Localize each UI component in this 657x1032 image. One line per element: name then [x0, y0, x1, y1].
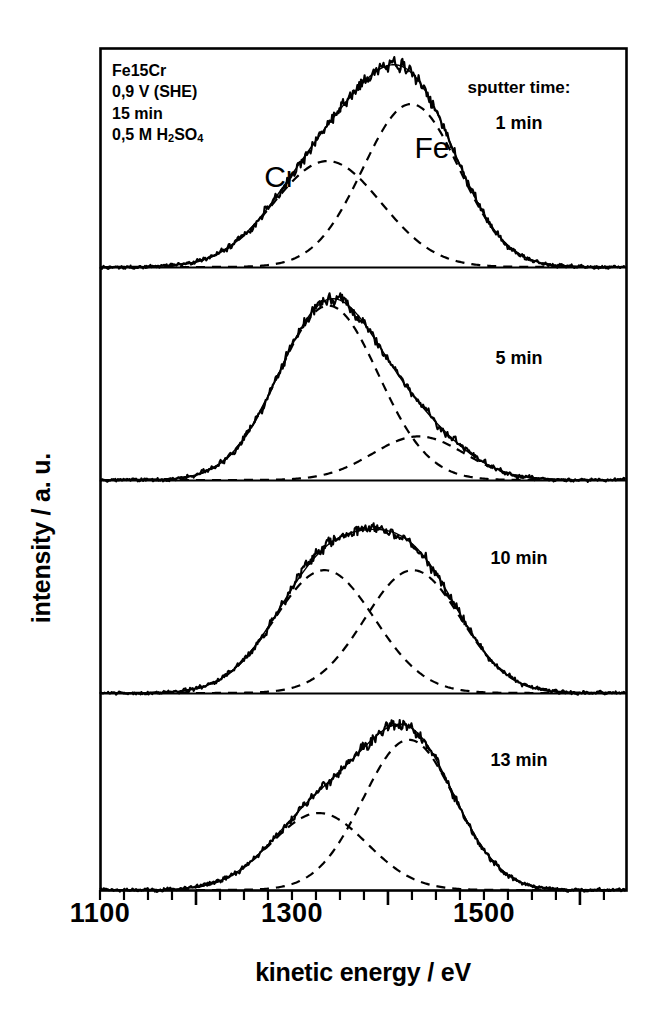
- component-curve-cr: [100, 161, 625, 267]
- sample-potential: 0,9 V (SHE): [112, 81, 203, 102]
- x-tick-label-1500: 1500: [453, 898, 515, 929]
- peak-label-fe: Fe: [414, 131, 449, 165]
- sample-name: Fe15Cr: [112, 60, 203, 81]
- sample-duration: 15 min: [112, 103, 203, 124]
- panel-time-label-2: 5 min: [495, 348, 542, 369]
- peak-label-cr: Cr: [264, 160, 296, 194]
- plot-canvas: [0, 0, 657, 1032]
- panel-time-label-3: 10 min: [490, 548, 547, 569]
- sample-annotation: Fe15Cr 0,9 V (SHE) 15 min 0,5 M H2SO4: [112, 60, 203, 145]
- panel-curves-4: [100, 720, 626, 892]
- sample-electrolyte: 0,5 M H2SO4: [112, 124, 203, 146]
- x-axis-label: kinetic energy / eV: [100, 958, 626, 987]
- envelope-curve: [100, 299, 625, 480]
- panel-curves-2: [100, 293, 626, 482]
- x-tick-label-1100: 1100: [70, 898, 131, 929]
- xps-figure: intensity / a. u. kinetic energy / eV 11…: [0, 0, 657, 1032]
- component-curve-cr: [100, 813, 625, 890]
- component-curve-cr: [100, 570, 625, 693]
- measured-spectrum: [100, 293, 626, 482]
- component-curve-fe: [100, 436, 625, 480]
- component-curve-fe: [100, 570, 625, 693]
- plot-frame: [101, 49, 627, 891]
- measured-spectrum: [100, 720, 626, 892]
- panel-time-label-4: 13 min: [490, 750, 547, 771]
- panel-time-label-1: 1 min: [495, 113, 542, 134]
- component-curve-cr: [100, 306, 625, 480]
- x-tick-label-1300: 1300: [261, 898, 323, 929]
- x-axis-ticks: [100, 890, 604, 905]
- y-axis-label: intensity / a. u.: [18, 358, 64, 718]
- sputter-time-heading: sputter time:: [468, 78, 571, 98]
